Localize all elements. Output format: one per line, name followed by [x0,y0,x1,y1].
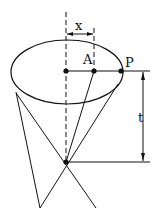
t-arrow-up [141,72,145,80]
x-arrow-left [67,32,73,36]
t-arrow-down [141,153,145,161]
point-center [63,68,68,73]
line-a-to-vertex [66,71,94,162]
label-x: x [75,18,83,33]
x-arrow-right [87,32,93,36]
point-p [118,68,123,73]
cone-diagram: x t A P [0,0,157,211]
label-t: t [138,110,144,125]
point-vertex [63,159,68,164]
label-a: A [82,52,93,67]
label-p: P [125,55,134,70]
point-a [91,68,96,73]
